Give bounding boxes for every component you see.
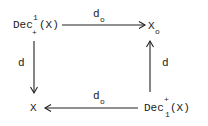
node-base: Dec [13,20,33,31]
node-base: Dec [144,103,164,114]
edge-label-left: d [18,58,25,69]
node-sub: o [155,28,160,36]
edge-label-sub: o [100,98,105,106]
node-arg: (X) [39,20,59,31]
edge-label-right: d [162,58,169,69]
node-sub: + [32,29,37,37]
edge-label-sub: o [100,16,105,24]
node-base: X [148,21,155,32]
edge-label: d [93,91,100,102]
node-arg: (X) [170,103,190,114]
node-sup: + [164,96,169,104]
edge-label: d [93,9,100,20]
node-bottom-left: X [30,103,37,114]
node-sup: 1 [33,14,38,22]
